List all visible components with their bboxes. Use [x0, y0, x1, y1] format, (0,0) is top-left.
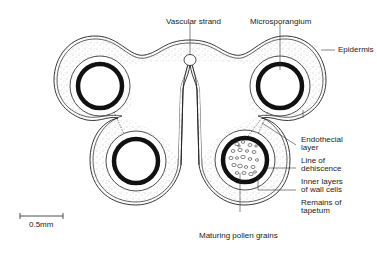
microsporangium-top-left [70, 56, 130, 116]
label-inner-layers-2: of wall cells [301, 186, 342, 194]
microsporangium-bottom-left [106, 131, 166, 191]
microsporangium-bottom-right [215, 130, 275, 190]
scale-bar-label: 0.5mm [29, 221, 53, 229]
label-vascular-strand: Vascular strand [166, 18, 221, 26]
label-epidermis: Epidermis [338, 46, 374, 54]
label-endothecial-2: layer [301, 144, 318, 152]
scale-bar [20, 213, 63, 219]
label-tapetum-2: tapetum [301, 207, 330, 215]
vascular-strand [184, 55, 196, 66]
anther-cross-section-diagram [0, 0, 377, 257]
label-microsporangium: Microsporangium [250, 18, 311, 26]
label-maturing-pollen: Maturing pollen grains [199, 232, 278, 240]
label-dehiscence-2: dehiscence [301, 165, 341, 173]
